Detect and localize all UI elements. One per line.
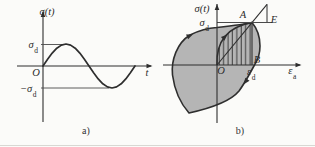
a-y-axis-label: σ(t) (39, 7, 54, 18)
b-epsilon-a-base: ε (288, 64, 292, 75)
figure-drawing (0, 0, 315, 147)
b-sigma-d-label: σd (200, 18, 209, 29)
b-sigma-d-base: σ (200, 17, 205, 28)
a-sigma-d-sub: d (34, 46, 38, 55)
b-epsilon-a-sub: a (293, 71, 296, 80)
a-sigma-d-base: σ (29, 39, 34, 50)
b-origin-label: O (217, 66, 225, 77)
textbook-figure: σ(t) σd −σd O t a) σ(t) σd A E B O εd εa… (0, 0, 315, 147)
b-point-B-label: B (254, 54, 260, 65)
b-sigma-d-sub: d (205, 24, 209, 33)
b-epsilon-d-label: εd (247, 67, 255, 78)
b-y-axis-arrow-icon (215, 4, 220, 10)
b-y-axis-label: σ(t) (194, 3, 209, 14)
a-origin-label: O (32, 68, 40, 79)
panel-b (163, 4, 302, 123)
b-point-A-label: A (240, 10, 246, 21)
b-x-axis-label: εa (288, 65, 295, 76)
b-x-axis-arrow-icon (296, 63, 302, 68)
b-point-E-label: E (271, 14, 277, 25)
page-rule-divider (0, 145, 315, 146)
a-x-axis-label: t (146, 68, 149, 79)
b-epsilon-d-base: ε (247, 66, 251, 77)
a-neg-sigma-d-label: −σd (20, 84, 36, 95)
caption-a: a) (82, 126, 90, 136)
a-neg-sigma-d-sub: d (33, 90, 37, 99)
a-sigma-d-label: σd (29, 40, 38, 51)
caption-b: b) (236, 126, 244, 136)
a-neg-sigma-d-base: −σ (20, 83, 32, 94)
b-epsilon-d-sub: d (252, 73, 256, 82)
